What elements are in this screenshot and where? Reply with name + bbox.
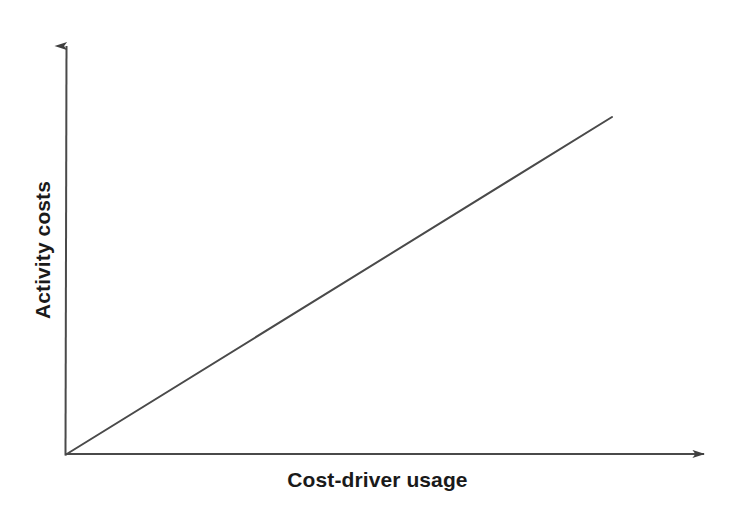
- cost-line-series: [66, 117, 612, 455]
- x-axis-label-text: Cost-driver usage: [287, 469, 467, 490]
- y-axis-label-text: Activity costs: [32, 181, 53, 319]
- x-axis-label: Cost-driver usage: [0, 469, 755, 490]
- chart-plot-area: [0, 0, 755, 511]
- chart-figure: Activity costs Cost-driver usage: [0, 0, 755, 511]
- y-axis-line: [66, 46, 67, 456]
